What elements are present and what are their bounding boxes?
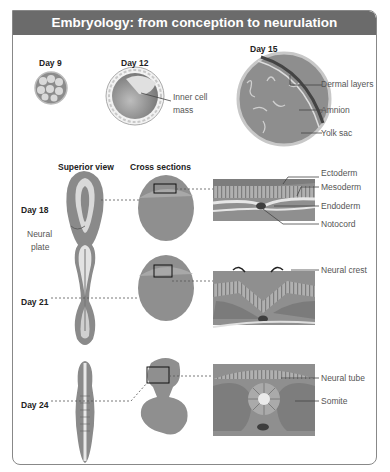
header-cross-sections: Cross sections	[130, 162, 191, 172]
day21-magnified	[213, 267, 319, 327]
label-day12: Day 12	[121, 58, 148, 68]
label-neural-tube: Neural tube	[321, 373, 365, 383]
day15-embryo	[238, 53, 330, 145]
label-neural-plate-2: plate	[31, 242, 49, 252]
day24-superior-view	[76, 361, 95, 463]
label-mesoderm: Mesoderm	[321, 182, 361, 192]
day18-magnified	[213, 177, 319, 224]
day12-blastocyst	[106, 67, 171, 125]
label-inner-cell-mass-1: Inner cell	[173, 92, 208, 102]
label-yolk-sac: Yolk sac	[321, 128, 352, 138]
label-day21: Day 21	[21, 297, 48, 307]
label-neural-crest: Neural crest	[321, 265, 367, 275]
label-inner-cell-mass-2: mass	[173, 105, 193, 115]
day21-cross-section	[51, 255, 213, 321]
header-superior-view: Superior view	[58, 162, 114, 172]
label-somite: Somite	[321, 396, 347, 406]
label-neural-plate-1: Neural	[27, 229, 52, 239]
day24-cross-section	[51, 358, 213, 435]
label-ectoderm: Ectoderm	[321, 168, 357, 178]
label-dermal-layers: Dermal layers	[321, 79, 373, 89]
day18-cross-section	[101, 175, 213, 241]
label-day15: Day 15	[250, 44, 277, 54]
day21-superior-view	[75, 241, 96, 345]
label-notocord: Notocord	[321, 219, 356, 229]
label-amnion: Amnion	[321, 105, 350, 115]
label-day24: Day 24	[21, 400, 48, 410]
day9-morula	[35, 72, 67, 104]
label-day18: Day 18	[21, 205, 48, 215]
label-day9: Day 9	[39, 58, 62, 68]
label-endoderm: Endoderm	[321, 201, 360, 211]
embryology-panel: Embryology: from conception to neurulati…	[12, 10, 377, 465]
day24-magnified	[213, 364, 319, 436]
day18-superior-view	[66, 171, 103, 251]
